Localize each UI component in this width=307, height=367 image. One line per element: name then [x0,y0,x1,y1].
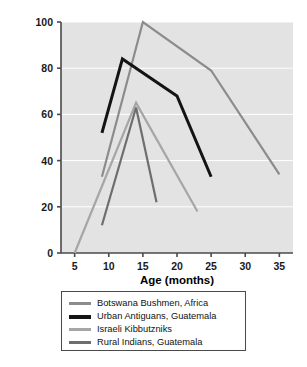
legend-label-botswana: Botswana Bushmen, Africa [97,297,208,310]
legend-label-urban-antiguans: Urban Antiguans, Guatemala [97,310,216,323]
y-tick-label: 0 [47,247,53,259]
y-tick-labels: 020406080100 [35,16,53,259]
legend-swatch-urban-antiguans [69,315,91,319]
legend-swatch-israeli-kibbutzniks [69,328,91,331]
legend-item: Rural Indians, Guatemala [69,336,238,349]
x-tick-labels: 5101520253035 [72,260,286,272]
x-tick-label: 15 [137,260,149,272]
x-tick-label: 20 [171,260,183,272]
legend-item: Botswana Bushmen, Africa [69,297,238,310]
y-tick-label: 100 [35,16,53,28]
x-tick-label: 5 [72,260,78,272]
legend-item: Urban Antiguans, Guatemala [69,310,238,323]
x-tick-label: 10 [103,260,115,272]
chart-legend: Botswana Bushmen, Africa Urban Antiguans… [61,291,246,351]
legend-swatch-botswana [69,302,91,305]
legend-item: Israeli Kibbutzniks [69,323,238,336]
plot-background [61,22,293,253]
legend-swatch-rural-indians [69,341,91,344]
y-tick-label: 80 [41,62,53,74]
x-axis-title: Age (months) [140,274,214,286]
x-tick-label: 35 [274,260,286,272]
chart-figure: 020406080100 5101520253035 Percentage of… [0,0,307,367]
y-tick-label: 60 [41,108,53,120]
legend-label-israeli-kibbutzniks: Israeli Kibbutzniks [97,323,172,336]
x-tick-label: 30 [239,260,251,272]
x-tick-label: 25 [205,260,217,272]
line-chart-plot: 020406080100 5101520253035 Percentage of… [0,0,307,290]
y-tick-label: 20 [41,201,53,213]
legend-label-rural-indians: Rural Indians, Guatemala [97,336,202,349]
y-tick-label: 40 [41,155,53,167]
